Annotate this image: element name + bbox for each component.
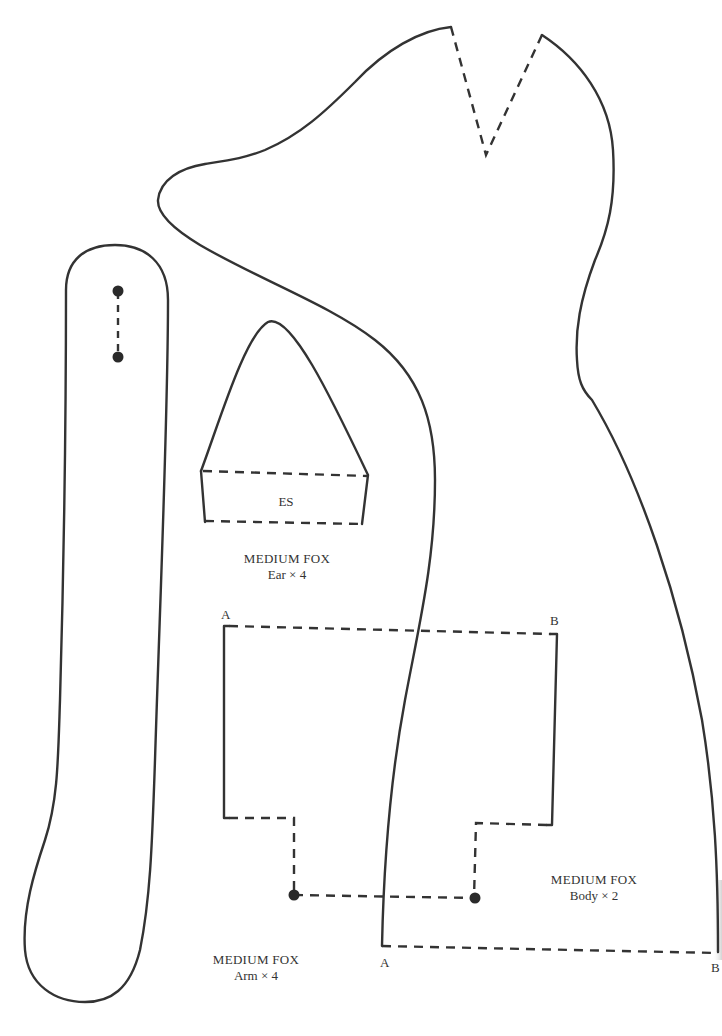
body-count: Body × 2 [570, 888, 619, 903]
gusset-left-side [224, 626, 229, 818]
ear-outline-left-side [201, 471, 205, 522]
arm-marker-dot-top [113, 286, 124, 297]
arm-marker-dot-bottom [113, 352, 124, 363]
arm-count: Arm × 4 [234, 968, 279, 983]
gusset-right-step [474, 823, 547, 898]
arm-outline [25, 245, 168, 1002]
body-title: MEDIUM FOX [551, 872, 638, 887]
ear-fold-line-top [203, 471, 368, 476]
gusset-piece [224, 626, 557, 904]
gusset-marker-dot-left [289, 890, 300, 901]
body-fold-line [382, 946, 718, 953]
gusset-left-step [229, 818, 294, 895]
marker-a-gusset: A [221, 607, 231, 622]
gusset-marker-dot-right [470, 893, 481, 904]
marker-a-body: A [380, 955, 390, 970]
gusset-right-side [547, 634, 557, 825]
ear-title: MEDIUM FOX [244, 551, 331, 566]
body-dart [451, 27, 542, 155]
ear-count: Ear × 4 [268, 567, 307, 582]
body-piece [158, 27, 718, 953]
ear-fold-line-bottom [205, 521, 362, 524]
marker-b-gusset: B [550, 613, 559, 628]
arm-piece [25, 245, 168, 1002]
gusset-top-line [229, 626, 551, 634]
ear-inner-label: ES [278, 494, 293, 509]
arm-title: MEDIUM FOX [213, 952, 300, 967]
pattern-sheet: ES MEDIUM FOX Ear × 4 MEDIUM FOX Arm × 4… [0, 0, 722, 1036]
marker-b-body: B [711, 960, 720, 975]
body-outline-right [542, 35, 718, 952]
